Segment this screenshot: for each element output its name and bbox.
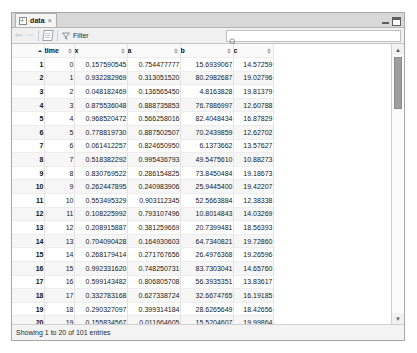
- cell-time: 11: [44, 207, 74, 221]
- cell-c: 19.02796: [233, 71, 273, 85]
- cell-x: 0.048182469: [74, 85, 127, 99]
- sort-arrows-b: [227, 48, 231, 53]
- column-header-rownum[interactable]: [12, 44, 44, 58]
- table-row[interactable]: 980.8307695220.28615482573.845048419.186…: [12, 166, 273, 180]
- cell-rownum: 18: [12, 289, 44, 303]
- tab-data[interactable]: data ×: [15, 13, 57, 27]
- back-arrow-icon[interactable]: ⇦: [15, 31, 23, 40]
- table-row[interactable]: 14130.7040904280.16493060364.734082119.7…: [12, 234, 273, 248]
- cell-b: 20.7399481: [180, 221, 233, 235]
- sort-arrows-rownum: [38, 50, 42, 52]
- export-sheet-icon[interactable]: [42, 30, 54, 41]
- cell-rownum: 10: [12, 180, 44, 194]
- close-icon[interactable]: ×: [48, 17, 52, 24]
- table-row[interactable]: 20190.1558345670.01166460515.520460719.9…: [12, 316, 273, 324]
- search-input[interactable]: [239, 31, 400, 41]
- cell-rownum: 17: [12, 275, 44, 289]
- table-row[interactable]: 760.0614122570.8246509506.137366213.5762…: [12, 139, 273, 153]
- cell-b: 10.8014843: [180, 207, 233, 221]
- forward-arrow-icon[interactable]: ⇨: [27, 31, 35, 40]
- cell-time: 14: [44, 248, 74, 262]
- cell-time: 18: [44, 302, 74, 316]
- cell-b: 6.1373662: [180, 139, 233, 153]
- table-row[interactable]: 15140.2681794140.27176765626.497636819.2…: [12, 248, 273, 262]
- table-row[interactable]: 540.9685204720.56625801682.404843416.878…: [12, 112, 273, 126]
- cell-a: 0.381259669: [127, 221, 180, 235]
- cell-x: 0.992331620: [74, 262, 127, 276]
- vertical-scrollbar[interactable]: ▲ ▼: [391, 44, 404, 324]
- column-header-c[interactable]: c: [233, 44, 273, 58]
- table-row[interactable]: 210.9322829690.31305152080.298268719.027…: [12, 71, 273, 85]
- table-row[interactable]: 16150.9923316200.74825073183.730304114.6…: [12, 262, 273, 276]
- column-label-time: time: [45, 47, 59, 54]
- minimize-icon[interactable]: [382, 18, 389, 25]
- scrollbar-track[interactable]: [392, 55, 404, 313]
- cell-time: 3: [44, 98, 74, 112]
- table-row[interactable]: 1090.2624478950.24098390625.944540019.42…: [12, 180, 273, 194]
- cell-a: 0.806805708: [127, 275, 180, 289]
- table-row[interactable]: 13120.2089158870.38125966920.739948118.5…: [12, 221, 273, 235]
- cell-c: 14.57259: [233, 58, 273, 72]
- scroll-up-icon[interactable]: ▲: [392, 44, 404, 55]
- grid-header: time x a b: [12, 44, 273, 58]
- cell-x: 0.290327097: [74, 302, 127, 316]
- status-bar: Showing 1 to 20 of 101 entries: [12, 324, 404, 340]
- cell-time: 8: [44, 166, 74, 180]
- cell-c: 12.62702: [233, 126, 273, 140]
- header-row: time x a b: [12, 44, 273, 58]
- column-header-time[interactable]: time: [44, 44, 74, 58]
- cell-c: 19.81379: [233, 85, 273, 99]
- table-row[interactable]: 11100.5534953290.90311234552.566388412.3…: [12, 194, 273, 208]
- table-row[interactable]: 18170.3327831680.62733872432.667476516.1…: [12, 289, 273, 303]
- cell-c: 19.18673: [233, 166, 273, 180]
- column-header-b[interactable]: b: [180, 44, 233, 58]
- cell-x: 0.061412257: [74, 139, 127, 153]
- table-row[interactable]: 320.0481824690.1365654504.816382819.8137…: [12, 85, 273, 99]
- cell-c: 12.38338: [233, 194, 273, 208]
- cell-rownum: 11: [12, 194, 44, 208]
- cell-a: 0.240983906: [127, 180, 180, 194]
- table-row[interactable]: 870.5183822920.99543679349.547561010.882…: [12, 153, 273, 167]
- table-row[interactable]: 650.7788197300.88750250770.243985912.627…: [12, 126, 273, 140]
- cell-time: 5: [44, 126, 74, 140]
- table-container: time x a b: [12, 44, 404, 324]
- cell-c: 14.03269: [233, 207, 273, 221]
- cell-time: 12: [44, 221, 74, 235]
- table-row[interactable]: 100.1575905450.75447777715.693906714.572…: [12, 58, 273, 72]
- cell-rownum: 9: [12, 166, 44, 180]
- cell-x: 0.704090428: [74, 234, 127, 248]
- grid-body: 100.1575905450.75447777715.693906714.572…: [12, 58, 273, 324]
- cell-rownum: 13: [12, 221, 44, 235]
- column-header-x[interactable]: x: [74, 44, 127, 58]
- cell-a: 0.888735853: [127, 98, 180, 112]
- maximize-icon[interactable]: [392, 17, 401, 26]
- cell-x: 0.778819730: [74, 126, 127, 140]
- cell-c: 19.42207: [233, 180, 273, 194]
- sort-arrows-time: [68, 48, 72, 53]
- scroll-down-icon[interactable]: ▼: [392, 313, 404, 324]
- cell-a: 0.793107496: [127, 207, 180, 221]
- cell-b: 49.5475610: [180, 153, 233, 167]
- scrollbar-thumb[interactable]: [394, 57, 402, 109]
- cell-time: 10: [44, 194, 74, 208]
- search-box[interactable]: [226, 30, 401, 42]
- cell-a: 0.313051520: [127, 71, 180, 85]
- cell-b: 26.4976368: [180, 248, 233, 262]
- cell-rownum: 5: [12, 112, 44, 126]
- data-viewer-window: data × ⇦ ⇨ Filter: [11, 12, 405, 341]
- cell-x: 0.875536048: [74, 98, 127, 112]
- table-row[interactable]: 430.8755360480.88873585376.788699712.607…: [12, 98, 273, 112]
- cell-b: 28.6265649: [180, 302, 233, 316]
- cell-rownum: 19: [12, 302, 44, 316]
- column-label-x: x: [75, 47, 79, 54]
- cell-rownum: 1: [12, 58, 44, 72]
- table-row[interactable]: 12110.1082259920.79310749610.801484314.0…: [12, 207, 273, 221]
- column-header-a[interactable]: a: [127, 44, 180, 58]
- column-label-b: b: [181, 47, 185, 54]
- cell-time: 19: [44, 316, 74, 324]
- cell-x: 0.262447895: [74, 180, 127, 194]
- filter-button[interactable]: Filter: [62, 32, 89, 40]
- cell-c: 13.57627: [233, 139, 273, 153]
- table-row[interactable]: 19180.2903270970.39931418428.626564918.4…: [12, 302, 273, 316]
- table-row[interactable]: 17160.5991434820.80680570856.393535113.8…: [12, 275, 273, 289]
